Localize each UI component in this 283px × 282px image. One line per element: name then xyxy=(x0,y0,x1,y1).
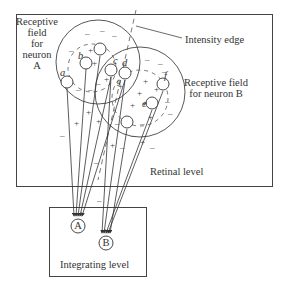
receptor-label-a: a xyxy=(60,67,65,78)
receptive-field-b-label: Receptive field for neuron B xyxy=(176,77,256,99)
receptor-g xyxy=(121,116,133,128)
svg-text:–: – xyxy=(95,78,101,88)
svg-text:+: + xyxy=(110,140,115,150)
svg-text:–: – xyxy=(99,25,105,35)
retinal-level-label: Retinal level xyxy=(150,166,203,177)
intensity-edge-label: Intensity edge xyxy=(185,34,244,45)
svg-text:+: + xyxy=(96,116,101,126)
svg-text:+: + xyxy=(92,58,97,68)
svg-text:–: – xyxy=(84,28,90,38)
svg-text:–: – xyxy=(114,118,120,128)
svg-text:+: + xyxy=(154,84,159,94)
svg-text:–: – xyxy=(87,84,93,94)
svg-text:–: – xyxy=(119,142,125,152)
sign-marks: ––– –++ ––– ++ ––– +++ +++ ––– –– +++ –+… xyxy=(59,25,173,205)
svg-text:–: – xyxy=(164,96,170,106)
svg-text:–: – xyxy=(144,54,150,64)
svg-text:+: + xyxy=(130,100,135,110)
svg-text:+: + xyxy=(86,107,91,117)
receptor-top xyxy=(94,43,106,55)
svg-text:–: – xyxy=(96,195,102,205)
svg-text:+: + xyxy=(137,88,142,98)
neuron-b-label: B xyxy=(100,237,112,248)
svg-text:–: – xyxy=(167,108,173,118)
svg-text:–: – xyxy=(111,30,117,40)
svg-text:–: – xyxy=(93,157,99,167)
svg-text:–: – xyxy=(130,130,136,140)
receptive-field-a-label: Receptive field for neuron A xyxy=(14,16,60,71)
svg-text:–: – xyxy=(75,84,81,94)
integrating-level-label: Integrating level xyxy=(60,259,129,270)
svg-text:+: + xyxy=(74,118,79,128)
svg-text:–: – xyxy=(68,45,74,55)
svg-text:+: + xyxy=(88,45,93,55)
receptor-label-g: g xyxy=(117,76,121,87)
svg-text:–: – xyxy=(139,118,145,128)
receptor-label-b: b xyxy=(78,50,83,61)
svg-text:+: + xyxy=(143,76,148,86)
svg-text:+: + xyxy=(148,112,153,122)
receptor-label-f: f xyxy=(164,70,167,81)
neuron-a-label: A xyxy=(72,220,84,231)
receptor-label-e: e xyxy=(142,98,147,109)
receptor-label-c: c xyxy=(113,55,118,66)
receptor-label-d: d xyxy=(122,57,127,68)
svg-text:–: – xyxy=(149,142,155,152)
intensity-edge-pointer xyxy=(136,26,182,38)
svg-text:+: + xyxy=(140,137,145,147)
receptor-e xyxy=(146,97,158,109)
svg-text:+: + xyxy=(104,74,109,84)
svg-text:–: – xyxy=(59,130,65,140)
